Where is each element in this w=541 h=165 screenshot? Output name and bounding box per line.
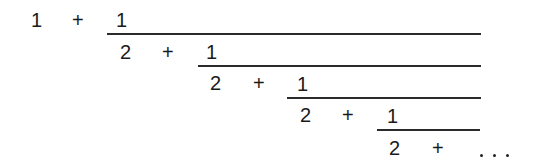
- denominator-plus-3: +: [342, 105, 354, 125]
- denominator-term-3: 2: [300, 105, 311, 125]
- denominator-term-4: 2: [389, 138, 400, 158]
- fraction-bar-3: [287, 97, 481, 99]
- fraction-bar-1: [107, 33, 481, 35]
- numerator-2: 1: [206, 42, 217, 62]
- leading-term: 1: [31, 10, 42, 30]
- denominator-term-2: 2: [210, 73, 221, 93]
- ellipsis-dot: [493, 154, 496, 157]
- numerator-4: 1: [387, 106, 398, 126]
- denominator-term-1: 2: [120, 42, 131, 62]
- denominator-plus-2: +: [253, 73, 265, 93]
- fraction-bar-4: [377, 129, 480, 131]
- continued-fraction: 1 + 1 2 + 1 2 + 1 2 + 1 2 +: [0, 0, 541, 165]
- numerator-3: 1: [297, 74, 308, 94]
- denominator-plus-1: +: [162, 42, 174, 62]
- ellipsis-dot: [480, 154, 483, 157]
- leading-plus: +: [72, 10, 84, 30]
- ellipsis-dot: [506, 154, 509, 157]
- ellipsis: [480, 154, 512, 158]
- numerator-1: 1: [116, 10, 127, 30]
- denominator-plus-4: +: [432, 138, 444, 158]
- fraction-bar-2: [198, 65, 481, 67]
